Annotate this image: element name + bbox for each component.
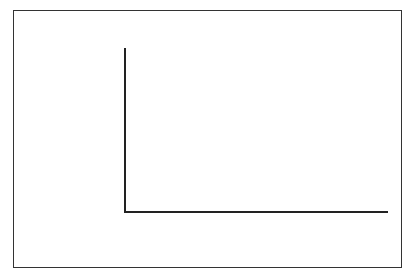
chart-frame (13, 10, 402, 268)
x-axis (124, 211, 388, 213)
y-axis (124, 48, 126, 211)
